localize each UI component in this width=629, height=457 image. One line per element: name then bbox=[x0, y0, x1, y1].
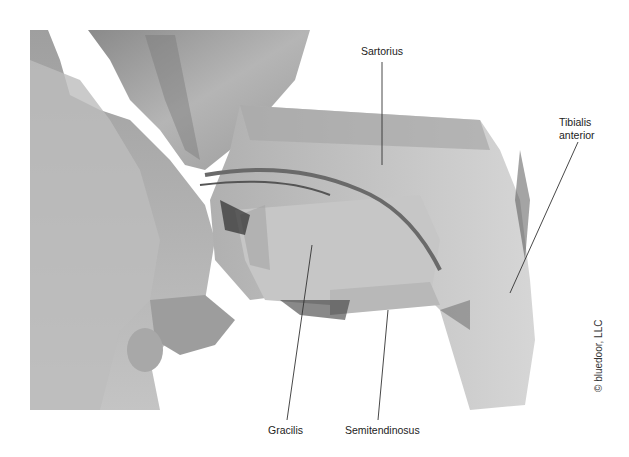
label-tibialis-anterior-line2: anterior bbox=[559, 129, 595, 142]
dissection-photo bbox=[0, 0, 629, 457]
anatomy-figure: Sartorius Tibialis anterior Gracilis Sem… bbox=[0, 0, 629, 457]
copyright-credit: © bluedoor, LLC bbox=[593, 320, 604, 392]
label-sartorius: Sartorius bbox=[361, 45, 403, 58]
semitendinosus-leader-line bbox=[378, 310, 388, 420]
label-gracilis: Gracilis bbox=[268, 424, 303, 437]
label-semitendinosus: Semitendinosus bbox=[345, 424, 420, 437]
label-tibialis-anterior-line1: Tibialis bbox=[559, 116, 591, 129]
